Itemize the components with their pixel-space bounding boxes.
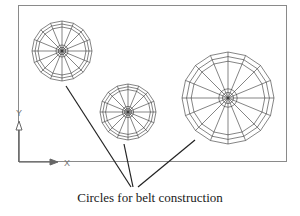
medium-circle: [100, 84, 156, 140]
x-axis-label: X: [64, 158, 70, 168]
x-arrow-icon: [50, 159, 58, 165]
ucs-icon: Y X: [16, 108, 70, 168]
large-circle: [182, 52, 274, 144]
viewport-frame: [19, 6, 287, 162]
small-circle: [32, 21, 92, 81]
y-arrow-icon: [16, 121, 22, 130]
y-axis-label: Y: [16, 108, 22, 118]
figure-caption: Circles for belt construction: [0, 190, 300, 206]
belt-circles: [32, 21, 274, 144]
drawing-canvas: Y X: [0, 0, 300, 216]
